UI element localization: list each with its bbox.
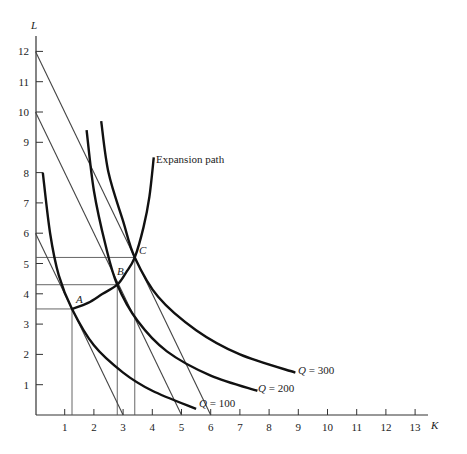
x-tick-label: 8	[266, 421, 272, 433]
x-tick-label: 1	[62, 421, 68, 433]
x-tick-label: 13	[410, 421, 422, 433]
y-tick-label: 8	[24, 167, 30, 179]
y-tick-label: 11	[18, 76, 29, 88]
x-tick-label: 12	[380, 421, 391, 433]
isocost-line	[36, 51, 211, 415]
isoquant-300-label: Q = 300	[298, 365, 334, 376]
x-tick-label: 7	[237, 421, 243, 433]
isoquant-100-label: Q = 100	[199, 398, 235, 409]
x-tick-label: 10	[322, 421, 334, 433]
y-tick-label: 9	[24, 136, 30, 148]
y-tick-label: 12	[18, 45, 29, 57]
x-axis-label: K	[431, 420, 438, 431]
y-tick-label: 2	[24, 348, 30, 360]
y-tick-label: 5	[24, 258, 30, 270]
y-tick-label: 7	[24, 197, 30, 209]
isoquant-200-label: Q = 200	[258, 383, 294, 394]
y-tick-label: 1	[24, 379, 30, 391]
y-tick-label: 3	[24, 318, 30, 330]
y-tick-label: 6	[24, 227, 30, 239]
expansion-path-curve	[72, 157, 154, 309]
x-tick-label: 9	[296, 421, 302, 433]
chart: 12345678910111213123456789101112 L K Exp…	[0, 0, 467, 454]
point-b-label: B	[117, 266, 124, 277]
x-tick-label: 2	[91, 421, 97, 433]
point-c-label: C	[139, 245, 146, 256]
point-a-label: A	[76, 294, 83, 305]
x-tick-label: 4	[150, 421, 156, 433]
x-tick-label: 3	[120, 421, 126, 433]
x-tick-label: 6	[208, 421, 214, 433]
y-tick-label: 10	[18, 106, 30, 118]
plot-area: 12345678910111213123456789101112	[0, 0, 467, 454]
x-tick-label: 11	[351, 421, 362, 433]
y-tick-label: 4	[24, 288, 30, 300]
y-axis-label: L	[31, 20, 37, 31]
expansion-path-label: Expansion path	[156, 154, 224, 165]
x-tick-label: 5	[179, 421, 185, 433]
